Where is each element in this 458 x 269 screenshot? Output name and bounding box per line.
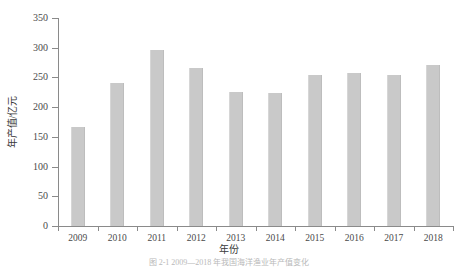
y-tick-label: 100	[20, 162, 48, 172]
bar	[189, 68, 203, 226]
x-tick-label: 2018	[414, 233, 454, 243]
x-tick-label: 2017	[374, 233, 414, 243]
x-tick-label: 2013	[216, 233, 256, 243]
x-tick	[216, 226, 217, 231]
x-tick-label: 2016	[335, 233, 375, 243]
x-tick-label: 2015	[295, 233, 335, 243]
y-tick-label: 300	[20, 43, 48, 53]
bar	[71, 127, 85, 226]
y-axis-title: 年产值/亿元	[7, 96, 18, 149]
x-tick	[335, 226, 336, 231]
x-tick	[374, 226, 375, 231]
x-tick-label: 2009	[58, 233, 98, 243]
bar	[308, 75, 322, 226]
x-tick	[295, 226, 296, 231]
y-tick-label: 50	[20, 191, 48, 201]
bar	[229, 92, 243, 226]
x-tick	[58, 226, 59, 231]
x-tick-label: 2012	[177, 233, 217, 243]
y-tick-label: 0	[20, 221, 48, 231]
x-axis-title: 年份	[0, 244, 458, 255]
bar	[268, 93, 282, 226]
x-tick	[137, 226, 138, 231]
x-tick	[453, 226, 454, 231]
x-tick	[256, 226, 257, 231]
y-tick-label: 200	[20, 102, 48, 112]
bar	[110, 83, 124, 226]
bar	[426, 65, 440, 226]
x-tick	[414, 226, 415, 231]
y-tick-label: 150	[20, 132, 48, 142]
y-tick-label: 250	[20, 72, 48, 82]
bar	[387, 75, 401, 226]
figure-caption: 图 2-1 2009—2018 年我国海洋渔业年产值变化	[0, 258, 458, 267]
bar	[347, 73, 361, 226]
x-tick	[98, 226, 99, 231]
figure-container: 年产值/亿元 050100150200250300350 20092010201…	[0, 0, 458, 269]
x-tick-label: 2011	[137, 233, 177, 243]
bar-series	[58, 18, 453, 226]
y-tick-label: 350	[20, 13, 48, 23]
x-tick-label: 2010	[98, 233, 138, 243]
x-tick	[177, 226, 178, 231]
bar	[150, 50, 164, 227]
x-tick-label: 2014	[256, 233, 296, 243]
